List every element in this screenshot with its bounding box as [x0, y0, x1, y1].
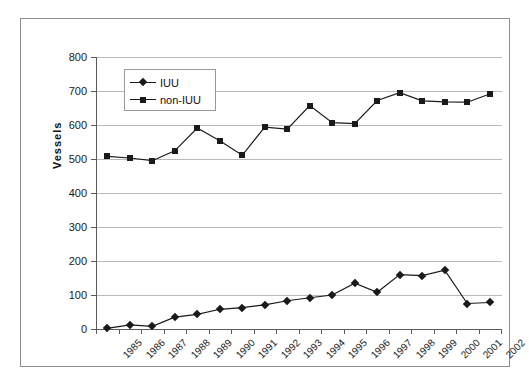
series-line-iuu: [107, 270, 490, 328]
data-point-marker: [442, 99, 448, 105]
legend-item-non-iuu: non-IUU: [130, 91, 210, 108]
data-point-marker: [374, 98, 380, 104]
data-point-marker: [172, 148, 178, 154]
cut-off-caption: [150, 0, 370, 8]
data-point-marker: [127, 155, 133, 161]
diamond-marker-icon: [130, 78, 156, 88]
series-lines: [21, 19, 511, 368]
data-point-marker: [217, 138, 223, 144]
chart-legend: IUU non-IUU: [124, 69, 216, 111]
data-point-marker: [464, 99, 470, 105]
data-point-marker: [284, 126, 290, 132]
data-point-marker: [149, 158, 155, 164]
data-point-marker: [307, 103, 313, 109]
data-point-marker: [329, 120, 335, 126]
data-point-marker: [352, 121, 358, 127]
square-marker-icon: [130, 95, 156, 105]
legend-label-iuu: IUU: [160, 77, 179, 89]
data-point-marker: [262, 124, 268, 130]
legend-label-non-iuu: non-IUU: [160, 94, 201, 106]
data-point-marker: [239, 152, 245, 158]
data-point-marker: [104, 153, 110, 159]
data-point-marker: [487, 91, 493, 97]
chart-frame: 8007006005004003002001000 Vessels 198519…: [20, 18, 510, 367]
legend-item-iuu: IUU: [130, 74, 210, 91]
data-point-marker: [194, 125, 200, 131]
data-point-marker: [397, 90, 403, 96]
data-point-marker: [419, 98, 425, 104]
